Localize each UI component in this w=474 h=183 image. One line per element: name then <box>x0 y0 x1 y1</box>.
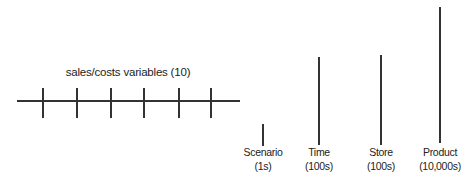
variables-axis-line <box>17 100 240 102</box>
scenario-label: Scenario (1s) <box>243 145 282 173</box>
product-line <box>439 7 441 143</box>
product-label: Product (10,000s) <box>419 145 461 173</box>
product-name: Product <box>419 145 461 159</box>
variable-tick <box>178 88 180 118</box>
scenario-name: Scenario <box>243 145 282 159</box>
variable-tick <box>210 88 212 118</box>
time-count: (100s) <box>305 159 333 173</box>
variables-title: sales/costs variables (10) <box>66 66 191 78</box>
store-count: (100s) <box>367 159 395 173</box>
variable-tick <box>143 88 145 118</box>
variable-tick <box>110 88 112 118</box>
time-name: Time <box>305 145 333 159</box>
store-label: Store (100s) <box>367 145 395 173</box>
store-line <box>380 55 382 145</box>
store-name: Store <box>367 145 395 159</box>
scenario-count: (1s) <box>243 159 282 173</box>
variable-tick <box>42 88 44 118</box>
variable-tick <box>76 88 78 118</box>
time-label: Time (100s) <box>305 145 333 173</box>
scenario-line <box>262 124 264 146</box>
time-line <box>318 57 320 145</box>
product-count: (10,000s) <box>419 159 461 173</box>
